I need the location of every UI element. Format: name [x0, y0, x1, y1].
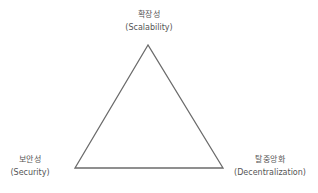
- security-english: (Security): [0, 166, 60, 179]
- decentralization-english: (Decentralization): [225, 166, 315, 179]
- vertex-label-decentralization: 탈중앙화 (Decentralization): [225, 153, 315, 179]
- scalability-korean: 확장성: [108, 8, 190, 21]
- security-korean: 보안성: [0, 153, 60, 166]
- decentralization-korean: 탈중앙화: [225, 153, 315, 166]
- vertex-label-scalability: 확장성 (Scalability): [108, 8, 190, 34]
- scalability-english: (Scalability): [108, 21, 190, 34]
- vertex-label-security: 보안성 (Security): [0, 153, 60, 179]
- triangle-shape: [75, 45, 223, 168]
